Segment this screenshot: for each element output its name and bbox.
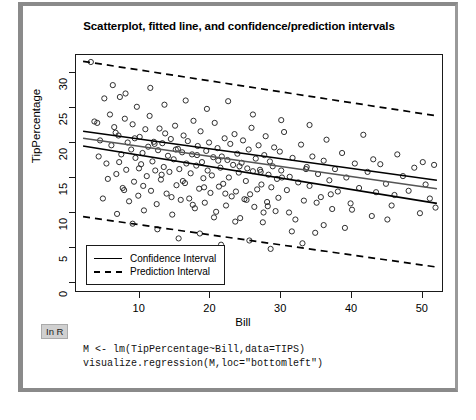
- scatter-point: [185, 139, 190, 144]
- scatter-point: [134, 104, 139, 109]
- scatter-point: [321, 158, 326, 163]
- scatter-point: [169, 195, 174, 200]
- scatter-point: [112, 125, 117, 130]
- x-tick-label: 50: [407, 302, 437, 314]
- scatter-point: [263, 134, 268, 139]
- regression-figure: TipPercentage 051015202530 Confidence In…: [23, 40, 463, 320]
- scatter-point: [395, 152, 400, 157]
- scatter-point: [212, 120, 217, 125]
- scatter-point: [284, 188, 289, 193]
- scatter-point: [238, 216, 243, 221]
- scatter-point: [256, 143, 261, 148]
- scatter-point: [233, 219, 238, 224]
- scatter-point: [214, 209, 219, 214]
- scatter-point: [126, 199, 131, 204]
- x-tickmark: [209, 292, 210, 298]
- scatter-point: [261, 210, 266, 215]
- scatter-point: [105, 176, 110, 181]
- scatter-point: [417, 211, 422, 216]
- scatter-point: [249, 125, 254, 130]
- legend-item-confidence: Confidence Interval: [93, 252, 216, 265]
- scatter-point: [369, 213, 374, 218]
- scatter-point: [198, 129, 203, 134]
- scatter-point: [211, 215, 216, 220]
- scatter-point: [158, 177, 163, 182]
- scatter-point: [286, 210, 291, 215]
- scatter-point: [205, 168, 210, 173]
- y-tick-label: 10: [57, 211, 69, 237]
- scatter-point: [204, 106, 209, 111]
- x-tickmark: [351, 292, 352, 298]
- scatter-point: [233, 189, 238, 194]
- y-tick-label: 30: [57, 71, 69, 97]
- scatter-point: [385, 217, 390, 222]
- scatter-point: [243, 178, 248, 183]
- scatter-point: [161, 164, 166, 169]
- scatter-point: [107, 112, 112, 117]
- y-axis-label: TipPercentage: [30, 89, 42, 163]
- scatter-point: [226, 99, 231, 104]
- scatter-point: [96, 154, 101, 159]
- scatter-point: [191, 118, 196, 123]
- legend-label-prediction: Prediction Interval: [130, 266, 210, 277]
- scatter-point: [246, 147, 251, 152]
- scatter-point: [279, 168, 284, 173]
- scatter-point: [136, 166, 141, 171]
- scatter-point: [420, 160, 425, 165]
- x-tickmark: [139, 292, 140, 298]
- scatter-point: [259, 182, 264, 187]
- scatter-point: [307, 122, 312, 127]
- scatter-point: [223, 203, 228, 208]
- x-axis-label: Bill: [23, 316, 463, 328]
- scatter-point: [147, 113, 152, 118]
- scatter-point: [378, 162, 383, 167]
- scatter-point: [349, 207, 354, 212]
- scatter-point: [412, 165, 417, 170]
- scatter-point: [223, 191, 228, 196]
- scatter-point: [229, 194, 234, 199]
- scatter-point: [231, 162, 236, 167]
- scatter-point: [279, 118, 284, 123]
- scatter-point: [183, 98, 188, 103]
- scatter-point: [117, 160, 122, 165]
- scatter-point: [339, 150, 344, 155]
- scatter-point: [342, 225, 347, 230]
- scatter-point: [188, 171, 193, 176]
- scatter-point: [300, 241, 305, 246]
- scatter-point: [157, 126, 162, 131]
- scatter-point: [222, 136, 227, 141]
- code-text[interactable]: M <- lm(TipPercentage~Bill,data=TIPS) vi…: [83, 343, 323, 371]
- scatter-point: [310, 154, 315, 159]
- scatter-point: [318, 195, 323, 200]
- scatter-point: [122, 116, 127, 121]
- scatter-point: [201, 176, 206, 181]
- scatter-point: [348, 201, 353, 206]
- scatter-point: [216, 158, 221, 163]
- scatter-point: [141, 208, 146, 213]
- scatter-point: [129, 147, 134, 152]
- scatter-point: [335, 189, 340, 194]
- scatter-point: [130, 122, 135, 127]
- scatter-point: [253, 156, 258, 161]
- legend-label-confidence: Confidence Interval: [130, 253, 216, 264]
- x-tick-label: 10: [124, 302, 154, 314]
- scatter-point: [141, 183, 146, 188]
- scatter-point: [154, 202, 159, 207]
- scatter-point: [431, 162, 436, 167]
- scatter-point: [165, 153, 170, 158]
- scatter-point: [281, 129, 286, 134]
- scatter-point: [104, 161, 109, 166]
- scatter-point: [232, 132, 237, 137]
- code-line-2: visualize.regression(M,loc="bottomleft"): [83, 358, 323, 369]
- scatter-point: [167, 169, 172, 174]
- scatter-point: [277, 149, 282, 154]
- series-line: [83, 61, 437, 116]
- scatter-point: [172, 123, 177, 128]
- scatter-point: [201, 185, 206, 190]
- scatter-point: [110, 83, 115, 88]
- scatter-point: [114, 211, 119, 216]
- scatter-point: [148, 85, 153, 90]
- scatter-point: [153, 168, 158, 173]
- scatter-point: [273, 209, 278, 214]
- scatter-point: [293, 217, 298, 222]
